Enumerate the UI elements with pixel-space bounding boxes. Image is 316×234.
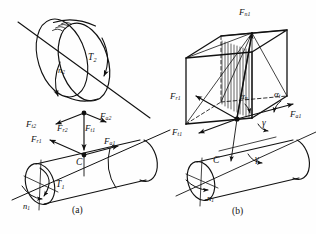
label-force-a1-b-sub: a1: [296, 113, 302, 119]
label-force-r1-b: Fr1: [170, 92, 181, 102]
worm-right-end: [140, 140, 157, 181]
label-force-a2: Fa2: [100, 112, 111, 122]
label-torque-t1: T1: [56, 180, 64, 190]
label-angle-gamma-lower: γ: [255, 155, 259, 165]
label-force-a2-sub: a2: [106, 115, 112, 121]
label-force-r1-sub: r1: [37, 138, 42, 144]
label-angle-alpha-n-sub: n: [245, 95, 248, 101]
label-torque-t2: T2: [88, 53, 96, 63]
label-force-t2-sub: t2: [32, 123, 36, 129]
force-a1-vector: [84, 146, 118, 155]
diagram-vector-graphics: [0, 0, 316, 234]
label-angle-alpha-t-sub: t: [279, 93, 281, 99]
worm-gear-force-diagram: T2 T n2 Ft2 Fr2 Ft1 Fa2 Fr1 Fa1 C T1 n1 …: [0, 0, 316, 234]
label-force-n1: Fn1: [239, 8, 250, 18]
label-force-r1: Fr1: [31, 135, 42, 145]
worm-b-centerline-v: [200, 158, 202, 206]
force-r1-vector: [50, 140, 84, 155]
label-speed-n1-a: n1: [23, 202, 30, 212]
label-force-t1-b: Ft1: [172, 128, 182, 138]
force-resolution-fan: [186, 33, 287, 124]
label-force-a1: Fa1: [104, 137, 115, 147]
label-force-n1-sub: n1: [245, 11, 251, 17]
label-force-r1-b-sub: r1: [176, 95, 181, 101]
label-speed-n1-b-sub: 1: [211, 197, 214, 203]
label-speed-n1-b: n1: [207, 194, 214, 204]
label-force-a1-b: Fa1: [290, 110, 301, 120]
worm-b-bottom-generator: [205, 178, 299, 200]
label-torque-t2-sub: 2: [93, 57, 96, 63]
box-bottom-front-edge: [186, 118, 252, 124]
force-n1-vector: [237, 33, 252, 118]
label-point-c-b: C: [213, 156, 219, 166]
worm-b-pitch-line: [231, 119, 237, 161]
label-speed-n2-sub: 2: [62, 69, 65, 75]
worm-top-generator: [36, 140, 140, 164]
caption-panel-a: (a): [72, 206, 83, 216]
label-force-r2: Fr2: [57, 124, 68, 134]
label-force-t2: Ft2: [26, 120, 36, 130]
worm-b-right-end: [293, 140, 309, 179]
label-force-a1-sub: a1: [110, 140, 116, 146]
torque-t1-arrow: [40, 168, 49, 196]
force-a1-vector-b: [237, 104, 293, 119]
label-torque-t1-sub: 1: [61, 184, 64, 190]
label-angle-alpha-n: αn: [240, 92, 248, 102]
caption-panel-b: (b): [232, 207, 243, 217]
label-force-t1-sub: t1: [91, 127, 95, 133]
label-force-t1: Ft1: [85, 124, 95, 134]
label-force-r2-sub: r2: [63, 127, 68, 133]
label-speed-n2: n2: [58, 66, 65, 76]
worm-b-helix-line: [219, 137, 276, 151]
label-point-c-a: C: [76, 158, 82, 168]
worm-b-axis-line: [176, 132, 316, 196]
speed-n1-arrow-b: [186, 180, 208, 190]
wheel-tooth-marks: [53, 22, 72, 31]
label-angle-alpha-t: αt: [274, 90, 280, 100]
panel-a-graphics: [12, 13, 170, 210]
label-speed-n1-a-sub: 1: [27, 205, 30, 211]
worm-b-top-generator: [197, 140, 293, 162]
label-angle-gamma-upper: γ: [262, 119, 266, 129]
wheel-axle-line: [18, 22, 150, 118]
label-force-t1-b-sub: t1: [178, 131, 182, 137]
